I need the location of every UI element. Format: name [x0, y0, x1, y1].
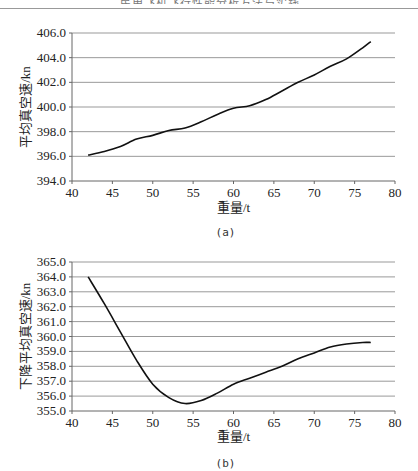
chart-b: 355.0356.0357.0358.0359.0360.0361.0362.0…: [0, 231, 418, 471]
x-tick-label: 70: [308, 185, 321, 200]
x-tick-label: 40: [66, 185, 79, 200]
y-axis-title: 平均真空速/kn: [18, 66, 33, 148]
y-tick-label: 400.0: [37, 99, 66, 114]
series-line: [88, 277, 371, 404]
x-tick-label: 80: [389, 185, 402, 200]
x-tick-label: 50: [146, 415, 159, 430]
y-axis-title: 下降平均真空速/kn: [18, 282, 33, 390]
y-tick-label: 362.0: [37, 299, 66, 314]
y-tick-label: 360.0: [37, 329, 66, 344]
x-tick-label: 75: [348, 415, 361, 430]
y-tick-label: 358.0: [37, 358, 66, 373]
x-tick-label: 60: [227, 415, 240, 430]
y-tick-label: 394.0: [37, 173, 66, 188]
y-tick-label: 364.0: [37, 269, 66, 284]
y-tick-label: 406.0: [37, 25, 66, 40]
y-tick-label: 361.0: [37, 314, 66, 329]
series-line: [88, 42, 371, 155]
x-tick-label: 70: [308, 415, 321, 430]
figure-caption: (b): [216, 457, 236, 470]
x-tick-label: 45: [106, 415, 119, 430]
x-tick-label: 55: [187, 415, 200, 430]
y-tick-label: 355.0: [37, 403, 66, 418]
x-tick-label: 40: [66, 415, 79, 430]
y-tick-label: 359.0: [37, 343, 66, 358]
x-tick-label: 55: [187, 185, 200, 200]
y-tick-label: 356.0: [37, 388, 66, 403]
y-tick-label: 396.0: [37, 148, 66, 163]
x-tick-label: 65: [267, 415, 280, 430]
y-tick-label: 404.0: [37, 50, 66, 65]
y-tick-label: 357.0: [37, 373, 66, 388]
x-tick-label: 65: [267, 185, 280, 200]
y-tick-label: 365.0: [37, 254, 66, 269]
chart-a: 394.0396.0398.0400.0402.0404.0406.040455…: [0, 0, 418, 240]
x-axis-title: 重量/t: [217, 200, 251, 215]
x-tick-label: 80: [389, 415, 402, 430]
y-tick-label: 398.0: [37, 124, 66, 139]
x-tick-label: 45: [106, 185, 119, 200]
x-tick-label: 60: [227, 185, 240, 200]
x-tick-label: 50: [146, 185, 159, 200]
x-tick-label: 75: [348, 185, 361, 200]
y-tick-label: 402.0: [37, 74, 66, 89]
x-axis-title: 重量/t: [217, 429, 251, 444]
y-tick-label: 363.0: [37, 284, 66, 299]
